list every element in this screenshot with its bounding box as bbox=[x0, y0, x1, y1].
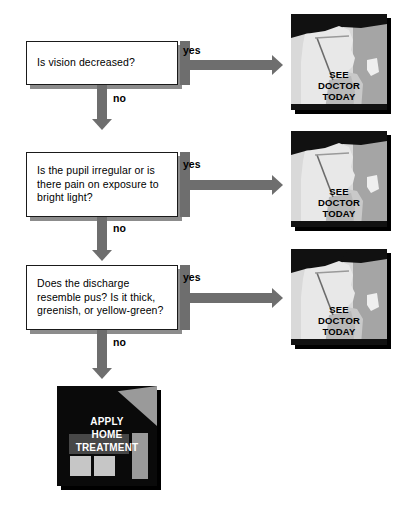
flowchart-canvas: Is vision decreased? yes no bbox=[0, 0, 400, 509]
question-text-1: Is vision decreased? bbox=[27, 56, 145, 70]
question-text-2: Is the pupil irregular or is there pain … bbox=[27, 164, 177, 205]
doctor-profile-icon bbox=[291, 131, 387, 227]
question-box-2[interactable]: Is the pupil irregular or is there pain … bbox=[26, 152, 178, 217]
no-label-2: no bbox=[113, 222, 126, 234]
no-arrow-3 bbox=[97, 330, 107, 368]
no-arrow-1 bbox=[97, 85, 107, 119]
doctor-profile-icon bbox=[291, 249, 387, 345]
no-label-3: no bbox=[113, 336, 126, 348]
doctor-profile-icon bbox=[291, 14, 387, 110]
yes-arrow-2 bbox=[180, 180, 272, 190]
yes-label-3: yes bbox=[183, 271, 201, 283]
yes-arrow-1 bbox=[180, 60, 272, 70]
house-icon bbox=[57, 386, 157, 486]
question-box-3[interactable]: Does the discharge resemble pus? Is it t… bbox=[26, 265, 178, 330]
no-label-1: no bbox=[113, 92, 126, 104]
question-text-3: Does the discharge resemble pus? Is it t… bbox=[27, 277, 177, 318]
see-doctor-panel-2[interactable]: SEE DOCTOR TODAY bbox=[291, 131, 387, 227]
see-doctor-panel-3[interactable]: SEE DOCTOR TODAY bbox=[291, 249, 387, 345]
see-doctor-panel-1[interactable]: SEE DOCTOR TODAY bbox=[291, 14, 387, 110]
apply-home-treatment-panel[interactable]: APPLY HOME TREATMENT bbox=[57, 386, 157, 486]
no-arrow-2 bbox=[97, 217, 107, 250]
yes-label-1: yes bbox=[183, 44, 201, 56]
yes-label-2: yes bbox=[183, 158, 201, 170]
yes-arrow-3 bbox=[180, 293, 272, 303]
question-box-1[interactable]: Is vision decreased? bbox=[26, 41, 178, 85]
